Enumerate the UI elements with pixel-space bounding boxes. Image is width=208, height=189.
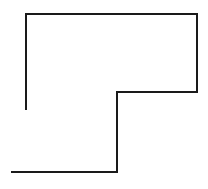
drawing-canvas (0, 0, 208, 189)
shape-canvas-svg (0, 0, 208, 189)
canvas-background (0, 0, 208, 189)
